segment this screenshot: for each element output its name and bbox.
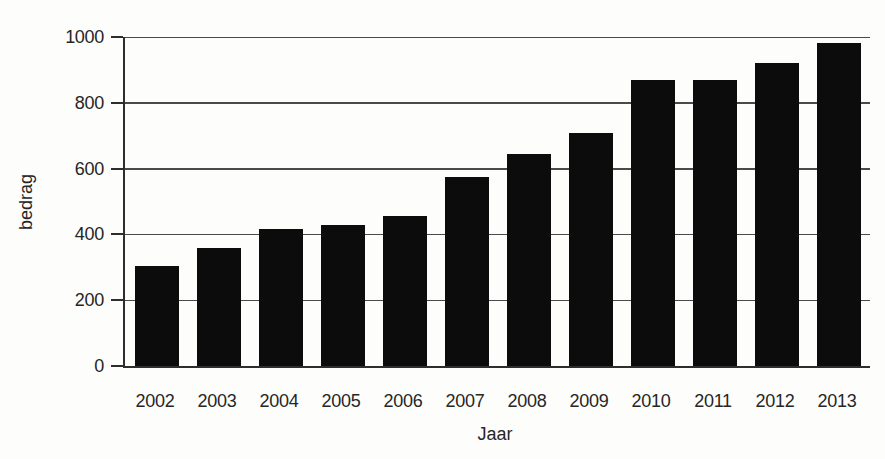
- bar-2006: [383, 216, 427, 366]
- bar-2002: [135, 266, 179, 366]
- bar-2007: [445, 177, 489, 366]
- bar-2012: [755, 63, 799, 366]
- bar-chart-figure: bedrag Jaar 0200400600800100020022003200…: [0, 0, 885, 459]
- gridline-1000: [125, 37, 870, 39]
- y-tick-label-0: 0: [0, 356, 104, 376]
- y-tick-label-800: 800: [0, 93, 104, 113]
- y-tick-mark-600: [111, 168, 123, 170]
- bar-2004: [259, 229, 303, 366]
- bar-2008: [507, 154, 551, 366]
- bar-2013: [817, 43, 861, 366]
- bar-2005: [321, 225, 365, 366]
- y-tick-mark-0: [111, 365, 123, 367]
- y-tick-label-1000: 1000: [0, 27, 104, 47]
- bar-2003: [197, 248, 241, 366]
- y-tick-mark-800: [111, 102, 123, 104]
- y-tick-label-400: 400: [0, 224, 104, 244]
- x-tick-label-2013: 2013: [797, 391, 877, 412]
- bar-2009: [569, 133, 613, 366]
- bar-2011: [693, 80, 737, 366]
- y-tick-label-200: 200: [0, 290, 104, 310]
- plot-area: [123, 37, 870, 368]
- y-tick-mark-400: [111, 233, 123, 235]
- y-tick-mark-200: [111, 299, 123, 301]
- y-axis-title: bedrag: [16, 174, 37, 230]
- x-axis-title: Jaar: [453, 424, 537, 445]
- bar-2010: [631, 80, 675, 366]
- y-tick-mark-1000: [111, 36, 123, 38]
- y-tick-label-600: 600: [0, 159, 104, 179]
